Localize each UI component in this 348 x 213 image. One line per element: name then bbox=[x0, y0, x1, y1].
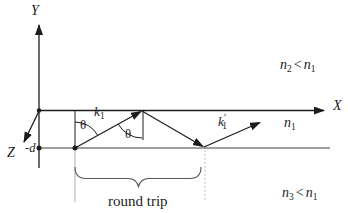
x-axis-label: X bbox=[332, 98, 342, 113]
core-index-label: n1 bbox=[284, 115, 296, 132]
substrate-operator: < bbox=[296, 185, 304, 200]
k1-subscript: 1 bbox=[100, 111, 105, 121]
cover-rhs-subscript: 1 bbox=[311, 64, 316, 74]
waveguide-ray-diagram: Y X Z -d k1 θ θ k′1 n1 n2<n1 n3<n1 round… bbox=[0, 0, 348, 213]
reflected-down-ray bbox=[142, 111, 203, 147]
n1-base: n bbox=[284, 115, 291, 130]
reflected-up-ray-k1-prime bbox=[204, 123, 260, 148]
launch-point-dot bbox=[73, 146, 78, 151]
k1-ray-label: k1 bbox=[94, 104, 105, 121]
y-axis-label: Y bbox=[31, 3, 41, 18]
round-trip-brace bbox=[75, 167, 201, 187]
z-axis-line bbox=[24, 111, 39, 142]
n3-subscript: 3 bbox=[289, 192, 294, 202]
substrate-rhs-subscript: 1 bbox=[313, 192, 318, 202]
n1-subscript: 1 bbox=[291, 122, 296, 132]
theta-incident-arc bbox=[75, 122, 98, 135]
substrate-rhs-base: n bbox=[306, 185, 313, 200]
depth-label: -d bbox=[25, 141, 36, 155]
n2-base: n bbox=[280, 57, 287, 72]
cover-operator: < bbox=[294, 57, 302, 72]
depth-dot bbox=[37, 146, 42, 151]
cover-rhs-base: n bbox=[304, 57, 311, 72]
n3-base: n bbox=[282, 185, 289, 200]
theta-incident-label: θ bbox=[80, 117, 86, 132]
cover-index-relation: n2<n1 bbox=[280, 57, 316, 74]
k1-prime-subscript: 1 bbox=[222, 121, 227, 131]
z-axis-label: Z bbox=[7, 145, 15, 160]
theta-reflected-label: θ bbox=[125, 126, 131, 141]
figure-canvas: Y X Z -d k1 θ θ k′1 n1 n2<n1 n3<n1 round… bbox=[0, 0, 348, 213]
vertex-dots bbox=[37, 108, 78, 150]
coordinate-axes bbox=[24, 25, 324, 168]
origin-dot bbox=[37, 108, 41, 112]
substrate-index-relation: n3<n1 bbox=[282, 185, 318, 202]
k1-prime-ray-label: k′1 bbox=[218, 112, 227, 131]
round-trip-caption: round trip bbox=[108, 193, 168, 209]
n2-subscript: 2 bbox=[287, 64, 292, 74]
